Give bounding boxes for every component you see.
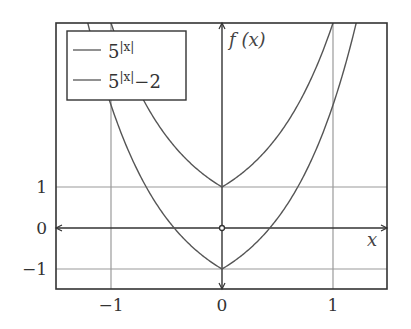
x-tick-label: −1 — [98, 295, 123, 315]
x-tick-label: 1 — [328, 295, 339, 315]
x-tick-label: 0 — [217, 295, 228, 315]
y-tick-label: −1 — [22, 259, 47, 279]
legend-label: 5|x|−2 — [108, 70, 161, 92]
chart-canvas: −101−101 f (x) x 5|x| 5|x|−2 — [0, 0, 411, 329]
x-axis-label: x — [367, 229, 377, 250]
y-axis-label: f (x) — [227, 29, 266, 50]
legend: 5|x| 5|x|−2 — [67, 31, 186, 100]
y-tick-label: 1 — [36, 177, 47, 197]
y-tick-label: 0 — [36, 218, 47, 238]
origin-marker — [220, 226, 225, 231]
